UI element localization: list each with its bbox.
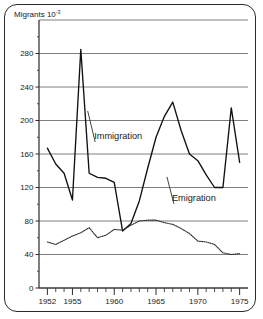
y-tick-label: 0 bbox=[29, 284, 34, 293]
x-tick-label: 1955 bbox=[64, 297, 82, 306]
y-tick-label: 40 bbox=[25, 250, 34, 259]
gridline-group bbox=[39, 20, 248, 255]
y-tick-label: 280 bbox=[20, 49, 34, 58]
series-line-immigration bbox=[47, 49, 239, 231]
x-tick-group bbox=[47, 288, 239, 295]
y-tick-label: 200 bbox=[20, 116, 34, 125]
x-tick-label: 1975 bbox=[231, 297, 249, 306]
emigration-label: Emigration bbox=[172, 193, 216, 203]
x-tick-label: 1960 bbox=[105, 297, 123, 306]
migration-chart-figure: 04080120160200240280 1952195519601965197… bbox=[0, 0, 263, 319]
x-tick-label: 1965 bbox=[147, 297, 165, 306]
series-line-emigration bbox=[47, 220, 239, 254]
axis-title-exponent: -3 bbox=[56, 9, 61, 15]
immigration-label: Immigration bbox=[94, 131, 142, 141]
y-tick-label: 160 bbox=[20, 150, 34, 159]
chart-canvas: 04080120160200240280 1952195519601965197… bbox=[0, 0, 263, 319]
x-tick-label: 1970 bbox=[189, 297, 207, 306]
x-tick-label: 1952 bbox=[38, 297, 56, 306]
y-tick-label: 120 bbox=[20, 183, 34, 192]
y-tick-label: 80 bbox=[25, 217, 34, 226]
axis-title-text: Migrants 10 bbox=[14, 10, 56, 19]
y-tick-label: 240 bbox=[20, 83, 34, 92]
y-tick-label-group: 04080120160200240280 bbox=[20, 49, 34, 293]
x-tick-label-group: 195219551960196519701975 bbox=[38, 297, 249, 306]
axis-title: Migrants 10-3 bbox=[14, 9, 61, 19]
